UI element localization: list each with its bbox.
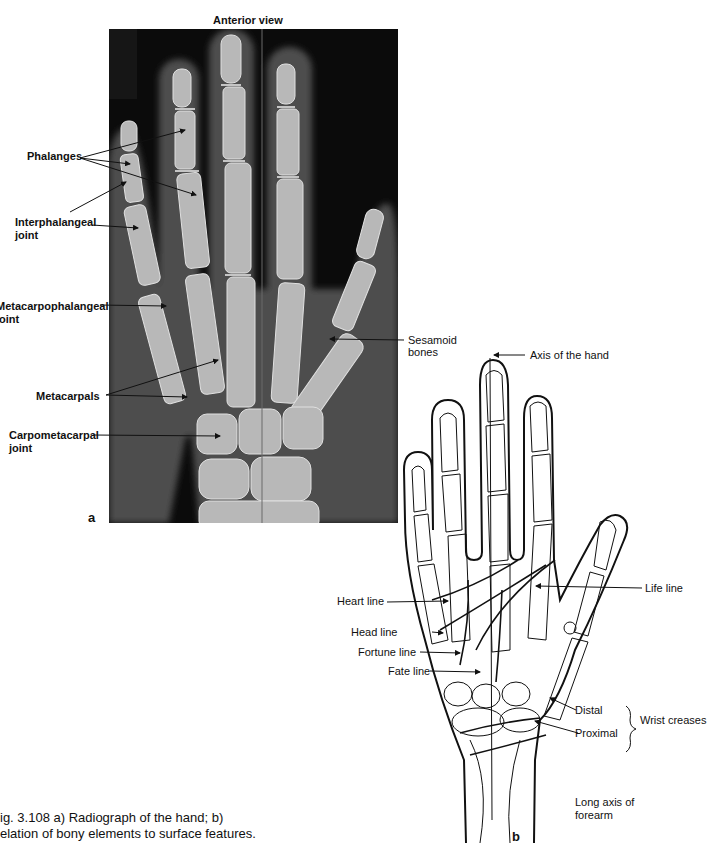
label-axis-of-hand: Axis of the hand <box>530 349 609 362</box>
panel-b-letter: b <box>512 829 520 844</box>
label-distal: Distal <box>575 704 603 717</box>
caption-line-1: ig. 3.108 a) Radiograph of the hand; b) <box>0 810 290 826</box>
label-fortune-line: Fortune line <box>358 646 416 659</box>
label-life-line: Life line <box>645 582 683 595</box>
hand-surface-drawing <box>0 0 718 854</box>
label-proximal: Proximal <box>575 727 618 740</box>
label-head-line: Head line <box>351 626 397 639</box>
label-wrist-creases: Wrist creases <box>640 714 706 727</box>
figure-caption: ig. 3.108 a) Radiograph of the hand; b) … <box>0 810 290 842</box>
label-heart-line: Heart line <box>337 595 384 608</box>
label-fate-line: Fate line <box>388 665 430 678</box>
caption-line-2: elation of bony elements to surface feat… <box>0 826 290 842</box>
label-long-axis-forearm: forearm <box>575 809 613 822</box>
label-long-axis: Long axis of <box>575 796 634 809</box>
